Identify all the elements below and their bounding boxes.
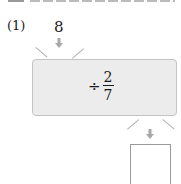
header-marker [8,0,24,2]
down-arrow-icon [55,38,63,48]
answer-box[interactable] [130,144,171,184]
input-value: 8 [54,18,64,36]
problem-number: (1) [7,18,25,33]
down-arrow-icon [146,129,154,139]
divide-sign: ÷ [88,77,101,95]
glow-ray [162,119,174,129]
fraction-numerator: 2 [103,70,114,86]
header-text-cropped [30,0,175,2]
fraction-denominator: 7 [104,86,113,102]
fraction: 2 7 [103,70,114,102]
glow-ray [35,47,47,57]
glow-ray [127,119,139,129]
cropped-header [0,0,181,3]
glow-ray [72,48,84,58]
operation-expression: ÷ 2 7 [88,70,114,102]
